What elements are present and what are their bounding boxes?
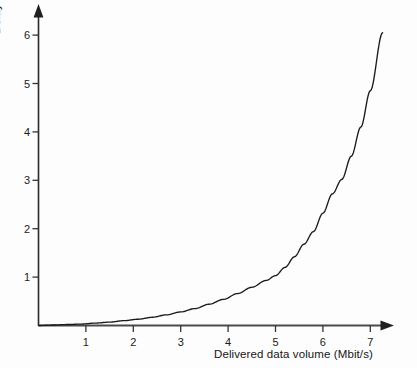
chart-figure: 1 2 3 4 5 6 7 1 2 3 4 5 6 Delivered data… [0,0,417,368]
y-axis-ticks [33,35,39,277]
plot-area [0,0,417,368]
y-tick-label-3: 3 [20,175,30,186]
x-tick-label-3: 3 [178,337,184,348]
x-axis-title: Delivered data volume (Mbit/s) [214,348,373,360]
y-tick-label-4: 4 [20,126,30,137]
y-axis-title: Delay (ms) [0,0,2,34]
x-tick-label-2: 2 [130,337,136,348]
y-axis-arrowhead [34,4,44,18]
data-series-line [39,33,383,326]
x-tick-label-6: 6 [320,337,326,348]
y-tick-label-6: 6 [20,30,30,41]
x-tick-label-1: 1 [83,337,89,348]
y-tick-label-5: 5 [20,78,30,89]
x-tick-label-5: 5 [272,337,278,348]
x-axis-ticks [86,326,370,333]
y-tick-label-1: 1 [20,272,30,283]
x-tick-label-4: 4 [225,337,231,348]
x-tick-label-7: 7 [367,337,373,348]
y-tick-label-2: 2 [20,223,30,234]
x-axis-arrowhead [381,321,395,331]
